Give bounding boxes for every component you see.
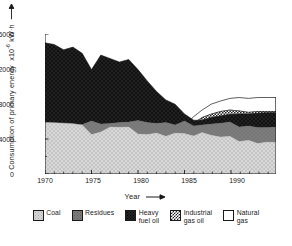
x-tick-label: 1990 [222,177,252,184]
right-arrow-icon [146,193,168,202]
legend-label-natural-gas: Natural gas [237,209,260,224]
y-tick-label: 4000 [0,136,14,143]
y-tick-label: 16000 [0,31,14,38]
plot-area [45,34,276,174]
chart-legend: Coal Residues Heavy fuel oil Industrial … [0,209,292,224]
y-axis-unit: x10-6 kW·h [7,22,16,63]
y-axis-title-text: Consumption of primary energy [7,65,16,170]
x-axis-title: Year [0,192,292,202]
legend-item-residues: Residues [72,209,115,221]
legend-item-industrial-gas-oil: Industrial gas oil [170,209,212,224]
legend-item-natural-gas: Natural gas [223,209,259,224]
legend-label-heavy-fuel-oil: Heavy fuel oil [139,209,159,224]
industrial-gas-oil-swatch [170,210,181,221]
legend-item-heavy-fuel-oil: Heavy fuel oil [125,209,159,224]
chart-figure: Consumption of primary energy x10-6 kW·h… [0,0,292,246]
heavy-fuel-oil-swatch [125,210,136,221]
y-tick-label: 8000 [0,101,14,108]
up-arrow-icon [7,1,16,19]
x-tick-label: 1975 [78,177,108,184]
natural-gas-swatch [223,210,234,221]
x-tick-label: 1980 [126,177,156,184]
legend-label-industrial-gas-oil: Industrial gas oil [184,209,213,224]
x-tick-label: 1985 [174,177,204,184]
coal-swatch [33,210,44,221]
y-tick-label: 12000 [0,66,14,73]
residues-swatch [72,210,83,221]
y-axis-title: Consumption of primary energy x10-6 kW·h [6,0,17,180]
legend-label-residues: Residues [85,209,114,217]
stacked-area-plot [45,34,276,174]
series-bands [45,43,276,174]
legend-item-coal: Coal [33,209,61,221]
x-axis-title-text: Year [125,192,141,201]
series-heavy-fuel-oil [45,43,276,128]
x-tick-label: 1970 [30,177,60,184]
legend-label-coal: Coal [46,209,60,217]
y-tick-label: 0 [0,171,14,178]
